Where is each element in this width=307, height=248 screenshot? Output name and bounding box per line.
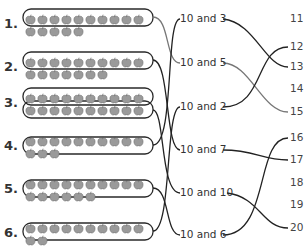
apple-icon [37, 223, 48, 234]
apple-group-6 [25, 223, 144, 247]
row-label-6: 6. [4, 225, 18, 240]
ones-row [25, 105, 144, 117]
apple-icon [49, 26, 60, 37]
number-16: 16 [290, 131, 303, 143]
apple-icon [25, 136, 36, 147]
apple-icon [49, 191, 60, 202]
apple-icon [109, 136, 120, 147]
apple-icon [97, 136, 108, 147]
apple-icon [49, 136, 60, 147]
apple-icon [85, 179, 96, 190]
number-14: 14 [290, 82, 303, 94]
apple-icon [85, 105, 96, 116]
apple-icon [49, 148, 60, 159]
apple-icon [61, 93, 72, 104]
apple-icon [73, 14, 84, 25]
apple-icon [61, 57, 72, 68]
line-10and3-13 [223, 19, 288, 67]
apple-icon [37, 179, 48, 190]
apple-icon [61, 179, 72, 190]
apple-icon [37, 26, 48, 37]
apple-icon [85, 14, 96, 25]
row-label-5: 5. [4, 181, 18, 196]
apple-icon [109, 14, 120, 25]
apple-icon [37, 57, 48, 68]
apple-icon [61, 69, 72, 80]
ones-row [25, 26, 144, 38]
apple-icon [97, 93, 108, 104]
ones-row [25, 235, 144, 247]
apple-icon [85, 93, 96, 104]
apple-icon [73, 191, 84, 202]
apple-icon [37, 148, 48, 159]
apple-group-1 [25, 14, 144, 38]
tens-row [25, 14, 144, 26]
apple-icon [49, 93, 60, 104]
middle-label-3: 10 and 2 [180, 100, 226, 112]
apple-icon [37, 191, 48, 202]
apple-group-3 [25, 93, 144, 117]
apple-icon [109, 93, 120, 104]
line-10and2-12 [223, 47, 288, 107]
number-11: 11 [290, 12, 303, 24]
apple-icon [25, 179, 36, 190]
apple-icon [109, 179, 120, 190]
middle-label-6: 10 and 6 [180, 228, 226, 240]
apple-icon [37, 93, 48, 104]
apple-icon [25, 223, 36, 234]
apple-icon [73, 136, 84, 147]
apple-icon [97, 69, 108, 80]
apple-icon [49, 69, 60, 80]
apple-icon [133, 179, 144, 190]
row-label-3: 3. [4, 95, 18, 110]
number-18: 18 [290, 176, 303, 188]
number-12: 12 [290, 40, 303, 52]
apple-icon [133, 105, 144, 116]
apple-icon [61, 105, 72, 116]
apple-icon [25, 235, 36, 246]
tens-row [25, 179, 144, 191]
apple-icon [73, 26, 84, 37]
apple-icon [25, 69, 36, 80]
apple-icon [85, 69, 96, 80]
apple-icon [133, 223, 144, 234]
apple-icon [61, 26, 72, 37]
apple-icon [109, 105, 120, 116]
apple-icon [25, 93, 36, 104]
apple-icon [37, 235, 48, 246]
number-13: 13 [290, 60, 303, 72]
tens-row [25, 223, 144, 235]
apple-icon [61, 191, 72, 202]
apple-icon [109, 57, 120, 68]
tens-row [25, 136, 144, 148]
apple-icon [85, 191, 96, 202]
apple-icon [73, 179, 84, 190]
apple-icon [37, 105, 48, 116]
apple-icon [121, 223, 132, 234]
tens-row [25, 93, 144, 105]
apple-icon [85, 223, 96, 234]
apple-icon [73, 57, 84, 68]
middle-label-5: 10 and 10 [180, 186, 233, 198]
apple-icon [97, 57, 108, 68]
ones-row [25, 148, 144, 160]
apple-icon [61, 136, 72, 147]
ones-row [25, 69, 144, 81]
apple-icon [49, 14, 60, 25]
apple-icon [73, 105, 84, 116]
apple-icon [37, 136, 48, 147]
apple-icon [97, 14, 108, 25]
apple-icon [121, 105, 132, 116]
apple-icon [73, 223, 84, 234]
apple-icon [49, 179, 60, 190]
apple-icon [121, 14, 132, 25]
apple-icon [97, 179, 108, 190]
apple-icon [85, 57, 96, 68]
apple-icon [49, 223, 60, 234]
middle-label-1: 10 and 3 [180, 12, 226, 24]
apple-group-4 [25, 136, 144, 160]
apple-icon [61, 14, 72, 25]
line-10and5-15 [223, 63, 288, 112]
line-10and7-17 [223, 150, 288, 160]
apple-icon [133, 14, 144, 25]
